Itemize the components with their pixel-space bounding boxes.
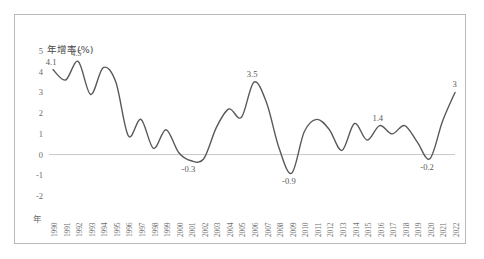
data-label-2006: 3.5: [247, 69, 258, 79]
screenshot-root: 年增率(%) 543210-1-2 1990199119921993199419…: [0, 0, 484, 259]
data-label-2009: -0.9: [282, 176, 296, 186]
data-label-2022: 3: [453, 79, 457, 89]
chart-frame: 年增率(%) 543210-1-2 1990199119921993199419…: [14, 14, 466, 244]
data-label-1990: 4.1: [46, 57, 57, 67]
data-label-2020: -0.2: [420, 162, 434, 172]
data-label-1992: 4.5: [71, 48, 82, 58]
data-label-2001: -0.3: [182, 164, 196, 174]
data-label-2016: 1.4: [372, 113, 383, 123]
line-plot: [15, 15, 467, 245]
